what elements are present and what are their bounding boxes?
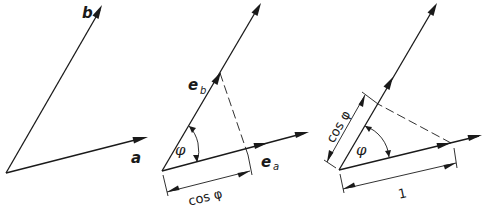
dim-ext-left [163, 175, 168, 196]
vector-projection-diagram: b a e b e a φ cos φ [0, 0, 485, 213]
vector-a-label: a [131, 149, 141, 167]
vector-b-arrowhead-icon [93, 5, 103, 19]
angle-arc-arrowhead-top-icon [189, 126, 196, 133]
dim-ext-right-base [454, 148, 457, 168]
vector-eb-subscript: b [200, 85, 206, 96]
vector-eb-arrowhead-3-icon [384, 77, 394, 90]
vector-eb-label: e [188, 76, 198, 94]
vector-ea-arrowhead-3-icon [437, 143, 452, 149]
line-b-arrowhead-3-icon [428, 3, 438, 16]
line-b-arrowhead-icon [252, 3, 262, 16]
dim-base-arrowhead-right-icon [444, 163, 457, 170]
panel-unit-vectors-projection: e b e a φ cos φ [162, 3, 309, 209]
vector-b-label: b [82, 4, 93, 22]
projection-dashed-line [220, 73, 248, 155]
panel-projection-onto-b: φ cos φ 1 [323, 3, 482, 202]
vector-ea-label: e [261, 153, 271, 171]
dim-arrowhead-right-icon [238, 171, 251, 178]
dim-arrowhead-left-icon [167, 186, 180, 193]
dimension-cos-phi-side-label: cos φ [323, 108, 353, 145]
dim-base-arrowhead-left-icon [343, 183, 356, 190]
angle-arc-arrowhead-bottom-3-icon [385, 150, 391, 157]
dim-ext-bottom-side [324, 160, 336, 168]
vector-ea-arrowhead-icon [254, 143, 269, 149]
line-a-arrowhead-3-icon [468, 135, 483, 141]
dim-ext-right [248, 155, 252, 175]
vector-b-line [6, 10, 100, 173]
angle-phi-label-3: φ [356, 141, 367, 159]
vector-ea-subscript: a [273, 161, 279, 172]
dimension-one-label: 1 [397, 185, 408, 201]
dim-line-one [343, 163, 456, 189]
vector-a-arrowhead-icon [133, 137, 149, 144]
panel-vectors-a-b: b a [6, 4, 148, 173]
angle-phi-label: φ [175, 141, 186, 159]
projection-dashed-line-3 [378, 104, 451, 143]
vector-a-line [6, 138, 143, 173]
vector-eb-arrowhead-icon [212, 72, 222, 85]
dimension-cos-phi-label: cos φ [187, 186, 224, 209]
line-a-arrowhead-icon [295, 132, 310, 138]
dim-ext-left-base [340, 174, 344, 193]
